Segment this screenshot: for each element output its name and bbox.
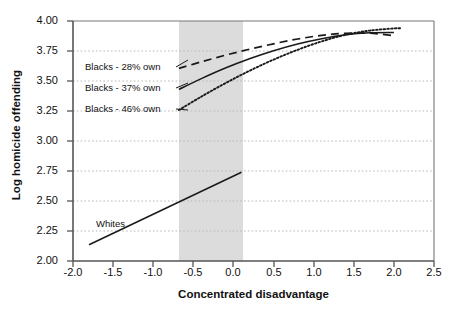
y-tick-label: 3.50 bbox=[14, 74, 58, 86]
chart-figure: Log homicide offending Concentrated disa… bbox=[0, 0, 475, 313]
gridlines bbox=[73, 51, 434, 231]
series-label-blacks-28: Blacks - 28% own bbox=[85, 61, 161, 72]
y-tick-label: 4.00 bbox=[14, 14, 58, 26]
y-tick-label: 2.75 bbox=[14, 164, 58, 176]
y-tick-label: 2.00 bbox=[14, 254, 58, 266]
y-axis-ticks bbox=[67, 21, 73, 261]
y-tick-label: 3.25 bbox=[14, 104, 58, 116]
y-tick-label: 2.25 bbox=[14, 224, 58, 236]
x-axis-title: Concentrated disadvantage bbox=[73, 288, 434, 300]
series-label-blacks-37: Blacks - 37% own bbox=[85, 82, 161, 93]
y-tick-label: 3.00 bbox=[14, 134, 58, 146]
series-label-whites: Whites bbox=[96, 218, 125, 229]
series-label-blacks-46: Blacks - 46% own bbox=[85, 103, 161, 114]
y-tick-label: 3.75 bbox=[14, 44, 58, 56]
y-tick-label: 2.50 bbox=[14, 194, 58, 206]
x-tick-label: 2.5 bbox=[409, 266, 459, 278]
